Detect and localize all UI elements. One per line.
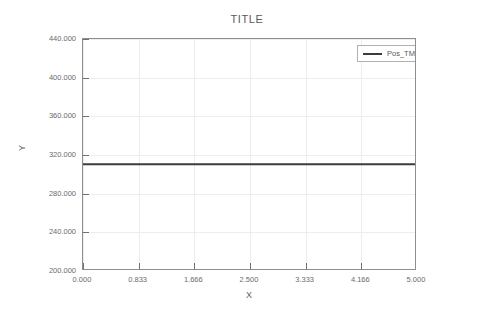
y-tick-label: 200.000 [49, 266, 76, 275]
legend-line-swatch [363, 53, 382, 55]
x-tick-label: 5.000 [407, 275, 426, 284]
chart-legend[interactable]: Pos_TM - Body1 (mm) [357, 45, 416, 62]
x-tick-label: 0.000 [73, 275, 92, 284]
chart-title: TITLE [0, 13, 494, 25]
y-tick-label: 440.000 [49, 34, 76, 43]
y-axis-title: Y [17, 135, 27, 161]
y-tick-label: 360.000 [49, 111, 76, 120]
y-axis-tick-labels: 200.000240.000280.000320.000360.000400.0… [28, 38, 76, 270]
x-axis-tick-labels: 0.0000.8331.6662.5003.3334.1665.000 [82, 275, 416, 287]
x-tick-label: 0.833 [128, 275, 147, 284]
y-tick-label: 400.000 [49, 72, 76, 81]
x-tick-label: 3.333 [295, 275, 314, 284]
x-axis-title: X [82, 290, 416, 300]
chart-figure: TITLE Pos_TM - Body1 (mm) 200.000240.000… [0, 0, 494, 317]
plot-area: Pos_TM - Body1 (mm) [82, 38, 416, 270]
y-tick-label: 320.000 [49, 150, 76, 159]
series-Pos_TM - Body1 (mm) [83, 39, 416, 270]
x-tick-label: 1.666 [184, 275, 203, 284]
x-tick-label: 4.166 [351, 275, 370, 284]
x-tick-label: 2.500 [240, 275, 259, 284]
y-tick-label: 240.000 [49, 227, 76, 236]
y-tick-label: 280.000 [49, 188, 76, 197]
legend-entry-label: Pos_TM - Body1 (mm) [387, 49, 416, 58]
